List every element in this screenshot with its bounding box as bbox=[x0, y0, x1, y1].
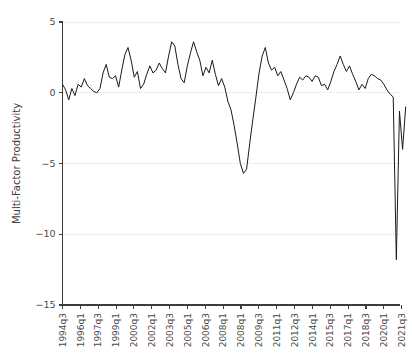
x-tick-label: 2006q3 bbox=[201, 313, 211, 347]
x-tick-label: 1996q1 bbox=[76, 313, 86, 347]
x-tick-label: 2000q3 bbox=[129, 313, 139, 347]
x-tick-label: 2008q1 bbox=[218, 313, 228, 347]
chart-figure: 50−5−10−15 1994q31996q11997q31999q12000q… bbox=[0, 0, 412, 363]
x-tick-label: 2012q3 bbox=[290, 313, 300, 347]
x-tick-label: 2009q3 bbox=[254, 313, 264, 347]
y-tick-label: 5 bbox=[49, 16, 55, 27]
x-tick-label: 2008q1 bbox=[236, 313, 246, 347]
x-tick-label: 2003q3 bbox=[165, 313, 175, 347]
y-axis-ticks-group: 50−5−10−15 bbox=[35, 16, 62, 310]
x-tick-label: 1994q3 bbox=[58, 313, 68, 347]
y-tick-label: −10 bbox=[35, 228, 55, 239]
x-tick-label: 2018q3 bbox=[361, 313, 371, 347]
gridlines-group bbox=[63, 22, 401, 305]
x-tick-label: 2002q1 bbox=[147, 313, 157, 347]
x-tick-label: 2011q1 bbox=[272, 313, 282, 347]
x-axis-ticks-group: 1994q31996q11997q31999q12000q32002q12003… bbox=[58, 305, 407, 347]
series-line-multi-factor-productivity bbox=[63, 42, 406, 260]
x-tick-label: 1997q3 bbox=[93, 313, 103, 347]
y-tick-label: −5 bbox=[41, 158, 55, 169]
x-tick-label: 2014q1 bbox=[308, 313, 318, 347]
x-tick-label: 2015q3 bbox=[325, 313, 335, 347]
x-tick-label: 1999q1 bbox=[111, 313, 121, 347]
x-tick-label: 2005q1 bbox=[183, 313, 193, 347]
y-tick-label: 0 bbox=[49, 87, 55, 98]
y-axis-title: Multi-Factor Productivity bbox=[11, 103, 22, 224]
x-tick-label: 2021q3 bbox=[397, 313, 407, 347]
x-tick-label: 2017q1 bbox=[343, 313, 353, 347]
x-tick-label: 2020q1 bbox=[379, 313, 389, 347]
multi-factor-productivity-line-chart: 50−5−10−15 1994q31996q11997q31999q12000q… bbox=[0, 0, 412, 363]
y-tick-label: −15 bbox=[35, 299, 55, 310]
